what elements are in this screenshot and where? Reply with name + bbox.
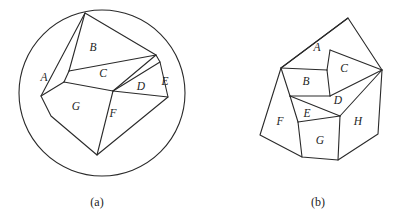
panel-b-region-label-e: E	[302, 107, 310, 119]
panel-b-cut-10	[290, 96, 298, 122]
panel-a-region-labels: ABCDEFG	[39, 41, 168, 119]
panel-b-region-label-c: C	[340, 62, 348, 74]
panel-b-region-label-g: G	[316, 134, 325, 146]
panel-b-cut-3	[330, 50, 382, 70]
figure-root: ABCDEFG (a) ABCDEFGH (b)	[0, 0, 397, 224]
panel-b-region-label-d: D	[333, 94, 343, 106]
panel-b-cut-2	[327, 50, 330, 70]
panel-a-cut-0	[69, 13, 85, 71]
panel-b-cut-5	[330, 70, 382, 96]
panel-b: ABCDEFGH (b)	[260, 18, 382, 209]
panel-a-cut-2	[64, 71, 69, 82]
panel-a-region-label-f: F	[108, 107, 117, 119]
panel-a-cut-1	[69, 55, 156, 71]
panel-b-cut-13	[338, 116, 340, 160]
panel-b-cut-4	[327, 70, 330, 96]
panel-a-region-label-c: C	[99, 67, 107, 79]
panel-a-cut-8	[97, 91, 113, 155]
panel-b-cut-8	[290, 96, 340, 116]
panel-a-cut-4	[64, 82, 113, 91]
panel-b-cut-1	[281, 68, 327, 70]
panel-b-cut-12	[298, 122, 302, 157]
panel-a-region-label-a: A	[39, 71, 48, 83]
panel-a: ABCDEFG (a)	[19, 10, 185, 209]
panel-a-region-label-d: D	[136, 80, 146, 92]
panel-b-region-label-h: H	[353, 115, 363, 127]
panel-b-cut-7	[281, 68, 290, 96]
panel-b-region-label-a: A	[312, 41, 321, 53]
partition-diagram: ABCDEFG (a) ABCDEFGH (b)	[0, 0, 397, 224]
panel-b-region-label-b: B	[302, 75, 309, 87]
panel-b-interior-cuts	[281, 18, 382, 160]
panel-a-region-label-g: G	[72, 100, 81, 112]
panel-b-cut-9	[340, 70, 382, 116]
panel-b-region-label-f: F	[275, 115, 284, 127]
panel-a-cut-7	[113, 91, 168, 97]
panel-a-region-label-e: E	[160, 75, 168, 87]
panel-a-region-label-b: B	[89, 41, 96, 53]
panel-a-cut-5	[113, 55, 156, 91]
panel-b-caption: (b)	[311, 195, 325, 209]
panel-a-caption: (a)	[90, 195, 103, 209]
panel-a-interior-cuts	[41, 13, 168, 155]
